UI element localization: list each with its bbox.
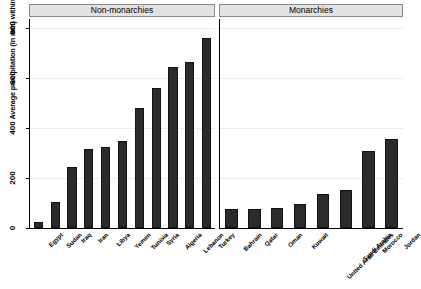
bar: [51, 202, 60, 228]
gridline: [220, 128, 403, 129]
x-axis-label: Yemen: [132, 231, 151, 250]
bar: [101, 147, 110, 228]
x-axis-label: Bahrain: [242, 231, 263, 252]
y-axis-tick-label: 200: [0, 173, 26, 183]
bar: [152, 88, 161, 228]
y-axis-tick-label: 400: [0, 123, 26, 133]
bar: [225, 209, 238, 228]
gridline: [30, 28, 215, 29]
y-axis-tick-label: 800: [0, 23, 26, 33]
bar: [317, 194, 330, 229]
x-axis-label: Algeria: [183, 231, 203, 251]
x-axis-label: Oman: [286, 231, 303, 248]
bar: [168, 67, 177, 228]
bar: [271, 208, 284, 229]
x-axis-label: Egypt: [47, 231, 64, 248]
x-axis-label: Kuwait: [310, 231, 329, 250]
bar: [118, 141, 127, 229]
bar: [294, 204, 307, 228]
bar: [385, 139, 398, 228]
bar: [84, 149, 93, 228]
bar: [67, 167, 76, 228]
bar: [362, 151, 375, 229]
y-axis-title: Average precipitation (in mm) within 50 …: [7, 0, 19, 134]
x-axis-label: Jordan: [402, 231, 421, 251]
y-axis-tick-label: 600: [0, 73, 26, 83]
panel-header-non-monarchies: Non-monarchies: [29, 4, 215, 17]
x-axis-label: Qatar: [263, 231, 279, 247]
gridline: [220, 178, 403, 179]
plot-area-monarchies: [219, 19, 403, 229]
y-axis-tick-label: 0: [0, 223, 26, 233]
x-axis-label: Iraq: [79, 231, 92, 244]
bar: [340, 190, 353, 228]
plot-area-non-monarchies: [29, 19, 215, 229]
x-axis-label: Iran: [96, 231, 109, 244]
bar: [248, 209, 261, 229]
bar: [185, 62, 194, 228]
bar: [34, 222, 43, 228]
gridline: [220, 78, 403, 79]
bar: [202, 38, 211, 228]
bar: [135, 108, 144, 228]
panel-header-monarchies: Monarchies: [219, 4, 403, 17]
x-axis-label: Libya: [114, 231, 130, 247]
gridline: [220, 28, 403, 29]
